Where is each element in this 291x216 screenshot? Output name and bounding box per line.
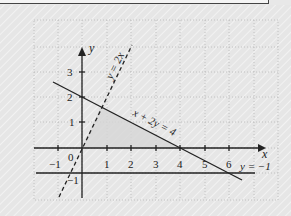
- x-tick-label: 4: [177, 158, 183, 170]
- y-tick-label: −1: [67, 174, 79, 186]
- y-axis-label: y: [88, 41, 95, 55]
- x-tick-label: −1: [49, 158, 61, 170]
- graph: y x 0 −1 1 2 3 4 5 6 3 2 1 −1 y = 2x x +…: [0, 0, 291, 216]
- x-tick-label: 3: [153, 158, 159, 170]
- x-tick-label: 1: [104, 158, 110, 170]
- line-label-y-eq-neg1: y = −1: [239, 160, 271, 172]
- origin-label: 0: [68, 151, 74, 163]
- y-tick-label: 3: [67, 66, 73, 78]
- y-tick-label: 1: [69, 116, 75, 128]
- x-tick-label: 6: [226, 158, 232, 170]
- x-axis-label: x: [261, 147, 268, 161]
- x-tick-label: 5: [202, 158, 208, 170]
- x-tick-label: 2: [128, 158, 134, 170]
- y-tick-label: 2: [67, 91, 73, 103]
